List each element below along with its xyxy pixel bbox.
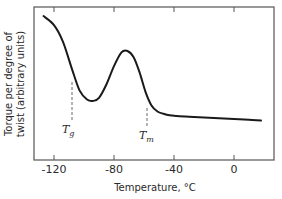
y-axis-title-line1: Torque per degree of — [3, 31, 14, 137]
tm-label: Tm — [139, 129, 154, 144]
y-axis-title-line2: twist (arbitrary units) — [15, 31, 26, 137]
tg-label: Tg — [62, 123, 74, 138]
x-tick-labels: -120-80-400 — [42, 163, 238, 176]
x-tick-label: -80 — [105, 163, 123, 176]
x-tick-label: 0 — [231, 163, 238, 176]
x-tick-label: -40 — [165, 163, 183, 176]
glass-transition-chart: -120-80-400 Tg Tm Temperature, °C Torque… — [0, 0, 282, 199]
x-axis-title: Temperature, °C — [113, 182, 196, 193]
x-tick-label: -120 — [42, 163, 67, 176]
transition-markers — [72, 82, 147, 128]
torque-curve — [44, 16, 262, 121]
